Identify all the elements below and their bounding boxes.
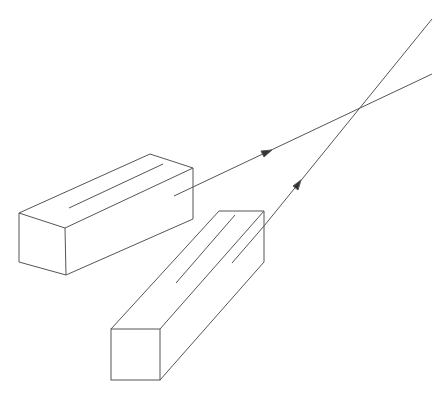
box-2 [111, 211, 264, 380]
diagram-canvas [0, 0, 448, 396]
beam-2 [264, 19, 432, 226]
box-1 [19, 154, 193, 275]
beam-1 [193, 74, 432, 187]
arrow-icon [261, 150, 272, 157]
